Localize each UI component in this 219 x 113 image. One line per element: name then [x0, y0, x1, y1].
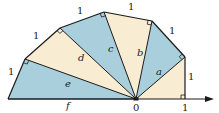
spiral-diagram: a b c d e f 1 1 1 1 1 1 0 1	[0, 0, 219, 113]
unit-label-1: 1	[188, 71, 194, 82]
unit-label-2: 1	[169, 25, 175, 36]
unit-label-5: 1	[33, 30, 39, 41]
unit-label-4: 1	[77, 5, 83, 16]
unit-label-3: 1	[128, 1, 134, 12]
label-e: e	[65, 78, 71, 89]
label-d: d	[78, 52, 84, 63]
unit-label-6: 1	[8, 66, 14, 77]
label-b: b	[137, 47, 143, 58]
axis-label-1: 1	[182, 102, 188, 113]
label-f: f	[65, 100, 72, 111]
label-a: a	[156, 66, 162, 77]
x-axis-arrow-icon	[205, 96, 214, 102]
origin-point	[134, 98, 139, 101]
label-c: c	[108, 43, 114, 54]
triangles-layer	[8, 12, 185, 99]
axis-label-0: 0	[133, 102, 139, 113]
